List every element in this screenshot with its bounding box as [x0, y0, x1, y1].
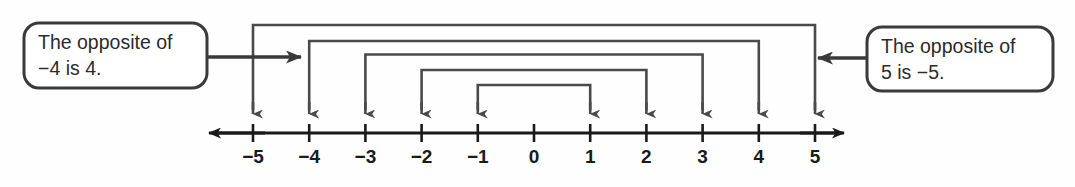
- number-line-tick-label: 1: [585, 146, 596, 167]
- number-line-tick-label: −4: [298, 146, 320, 167]
- number-line-tick-label: −1: [467, 146, 489, 167]
- number-line-tick-label: −2: [411, 146, 433, 167]
- opposite-bracket-path: [422, 70, 647, 110]
- number-line-ticks-group: −5−4−3−2−1012345: [242, 124, 821, 167]
- opposite-bracket-path: [253, 25, 815, 110]
- callout-right-group[interactable]: The opposite of 5 is −5.: [818, 27, 1053, 91]
- number-line-tick-label: 3: [697, 146, 708, 167]
- callout-right-line2: 5 is −5.: [881, 61, 944, 83]
- callout-left-line1: The opposite of: [38, 31, 173, 53]
- opposites-number-line-figure: −5−4−3−2−1012345 The opposite of −4 is 4…: [0, 0, 1075, 187]
- opposite-bracket-path: [309, 41, 759, 110]
- opposite-bracket: [309, 41, 759, 114]
- number-line-tick-label: −3: [355, 146, 377, 167]
- number-line-tick-label: 2: [641, 146, 652, 167]
- opposite-bracket: [422, 70, 647, 114]
- callout-left-group[interactable]: The opposite of −4 is 4.: [24, 23, 301, 88]
- opposite-bracket-path: [478, 85, 590, 110]
- number-line-tick-label: −5: [242, 146, 264, 167]
- figure-canvas: −5−4−3−2−1012345 The opposite of −4 is 4…: [0, 0, 1075, 187]
- number-line-tick-label: 5: [810, 146, 821, 167]
- number-line-tick-label: 4: [754, 146, 765, 167]
- number-line-tick-label: 0: [529, 146, 540, 167]
- opposite-bracket: [478, 85, 590, 114]
- callout-left-line2: −4 is 4.: [38, 57, 101, 79]
- callout-right-line1: The opposite of: [881, 35, 1016, 57]
- opposite-bracket-path: [365, 55, 702, 111]
- opposite-brackets-group: [253, 25, 815, 114]
